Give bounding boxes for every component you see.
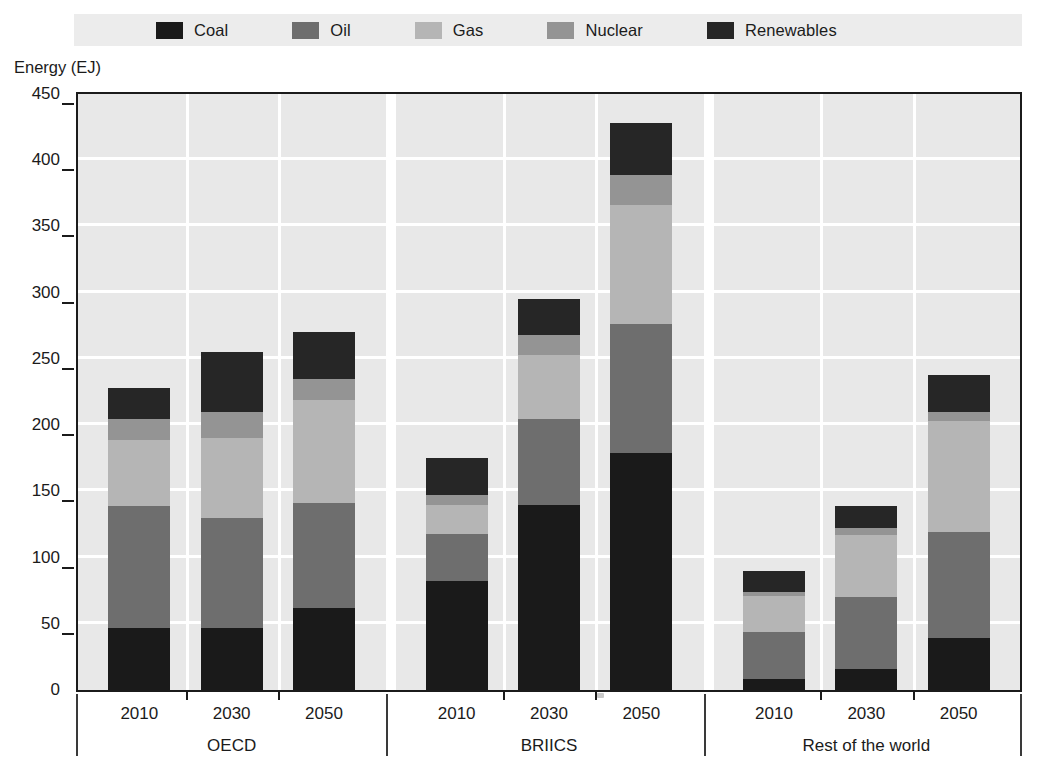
chart-legend: CoalOilGasNuclearRenewables <box>74 14 1022 46</box>
y-tick-mark <box>62 302 74 304</box>
bar-segment-coal <box>743 679 805 690</box>
bar-segment-coal <box>426 581 488 690</box>
legend-item-renewables[interactable]: Renewables <box>707 21 837 40</box>
bar-segment-nuclear <box>518 335 580 355</box>
gridline-vertical <box>186 94 189 690</box>
legend-swatch-icon-nuclear <box>547 22 574 39</box>
y-tick-label: 450 <box>0 84 60 104</box>
y-tick-label: 250 <box>0 349 60 369</box>
x-axis-group-divider <box>76 694 78 756</box>
y-tick-mark <box>62 368 74 370</box>
gridline-horizontal <box>78 290 1020 293</box>
bar-segment-coal <box>518 505 580 690</box>
bar-segment-gas <box>426 505 488 534</box>
bar-segment-oil <box>610 324 672 452</box>
y-tick-mark <box>62 567 74 569</box>
bar-briics-2030[interactable] <box>518 299 580 690</box>
bar-segment-nuclear <box>835 528 897 535</box>
x-axis-group-label: Rest of the world <box>756 736 976 756</box>
bar-oecd-2050[interactable] <box>293 332 355 690</box>
x-tick-mark <box>186 692 188 700</box>
y-tick-label: 350 <box>0 216 60 236</box>
chart-root: CoalOilGasNuclearRenewables Energy (EJ) … <box>0 0 1049 777</box>
bar-oecd-2010[interactable] <box>108 388 170 690</box>
x-tick-mark <box>595 692 597 700</box>
bar-segment-renewables <box>518 299 580 335</box>
legend-item-gas[interactable]: Gas <box>415 21 484 40</box>
x-tick-label-year: 2030 <box>192 704 272 724</box>
y-tick-mark <box>62 434 74 436</box>
x-tick-label-year: 2050 <box>919 704 999 724</box>
bar-segment-coal <box>835 669 897 690</box>
bar-segment-nuclear <box>293 379 355 400</box>
bar-segment-oil <box>835 597 897 669</box>
y-tick-label: 400 <box>0 150 60 170</box>
legend-swatch-icon-renewables <box>707 22 734 39</box>
y-tick-label: 150 <box>0 481 60 501</box>
group-separator-band <box>704 94 714 690</box>
legend-label: Oil <box>330 21 350 40</box>
x-tick-label-year: 2050 <box>601 704 681 724</box>
x-tick-label-year: 2010 <box>417 704 497 724</box>
bar-rest-of-the-world-2010[interactable] <box>743 571 805 690</box>
x-axis-group-label: OECD <box>122 736 342 756</box>
bar-segment-renewables <box>835 506 897 529</box>
bar-rest-of-the-world-2030[interactable] <box>835 506 897 690</box>
y-tick-mark <box>62 500 74 502</box>
x-axis-group-divider <box>704 694 706 756</box>
y-tick-label: 300 <box>0 283 60 303</box>
x-tick-label-year: 2030 <box>826 704 906 724</box>
bar-segment-gas <box>743 596 805 632</box>
x-tick-label-year: 2030 <box>509 704 589 724</box>
x-tick-label-year: 2010 <box>734 704 814 724</box>
bar-segment-renewables <box>108 388 170 418</box>
bar-segment-nuclear <box>201 412 263 438</box>
gridline-vertical <box>595 94 598 690</box>
bar-segment-oil <box>201 518 263 628</box>
bar-segment-oil <box>928 532 990 638</box>
gridline-vertical <box>913 94 916 690</box>
gridline-vertical <box>278 94 281 690</box>
bar-segment-renewables <box>426 458 488 495</box>
y-tick-mark <box>62 103 74 105</box>
legend-swatch-icon-coal <box>156 22 183 39</box>
bar-segment-gas <box>835 535 897 597</box>
bar-segment-renewables <box>928 375 990 412</box>
y-tick-mark <box>62 633 74 635</box>
bar-segment-renewables <box>201 352 263 412</box>
bar-segment-gas <box>518 355 580 419</box>
x-tick-label-year: 2010 <box>99 704 179 724</box>
scan-artifact <box>597 693 604 698</box>
y-tick-label: 0 <box>0 680 60 700</box>
bar-segment-gas <box>610 205 672 324</box>
bar-briics-2050[interactable] <box>610 123 672 690</box>
gridline-vertical <box>503 94 506 690</box>
gridline-vertical <box>820 94 823 690</box>
bar-segment-nuclear <box>426 495 488 504</box>
bar-segment-nuclear <box>610 175 672 205</box>
x-tick-mark <box>503 692 505 700</box>
bar-segment-coal <box>610 453 672 690</box>
y-tick-label: 100 <box>0 548 60 568</box>
legend-swatch-icon-gas <box>415 22 442 39</box>
legend-item-coal[interactable]: Coal <box>156 21 228 40</box>
bar-briics-2010[interactable] <box>426 458 488 690</box>
x-tick-mark <box>278 692 280 700</box>
bar-rest-of-the-world-2050[interactable] <box>928 375 990 690</box>
bar-segment-oil <box>518 419 580 505</box>
plot-area <box>76 92 1022 692</box>
legend-item-oil[interactable]: Oil <box>292 21 350 40</box>
legend-label: Nuclear <box>585 21 643 40</box>
legend-label: Gas <box>453 21 484 40</box>
bar-segment-gas <box>108 440 170 506</box>
bar-oecd-2030[interactable] <box>201 352 263 690</box>
bar-segment-renewables <box>610 123 672 175</box>
x-tick-label-year: 2050 <box>284 704 364 724</box>
bar-segment-oil <box>108 506 170 628</box>
y-axis-title: Energy (EJ) <box>14 58 101 77</box>
legend-item-nuclear[interactable]: Nuclear <box>547 21 643 40</box>
y-tick-label: 200 <box>0 415 60 435</box>
gridline-horizontal <box>78 223 1020 226</box>
bar-segment-coal <box>201 628 263 690</box>
bar-segment-renewables <box>743 571 805 592</box>
